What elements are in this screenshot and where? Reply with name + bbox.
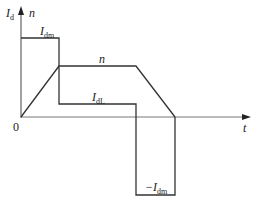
label-idm: Idm [40, 25, 54, 40]
y-label-current: Id [6, 7, 14, 22]
x-label-t: t [243, 122, 246, 134]
y-axis-arrow-icon [18, 6, 24, 15]
origin-label: 0 [13, 121, 19, 133]
y-label-speed: n [29, 7, 35, 19]
label-n: n [99, 53, 105, 65]
label-neg-idm: −Idm [145, 181, 167, 196]
current-speed-diagram [0, 0, 260, 207]
t-axis-arrow-icon [242, 114, 251, 120]
label-idl: IdL [92, 91, 105, 106]
